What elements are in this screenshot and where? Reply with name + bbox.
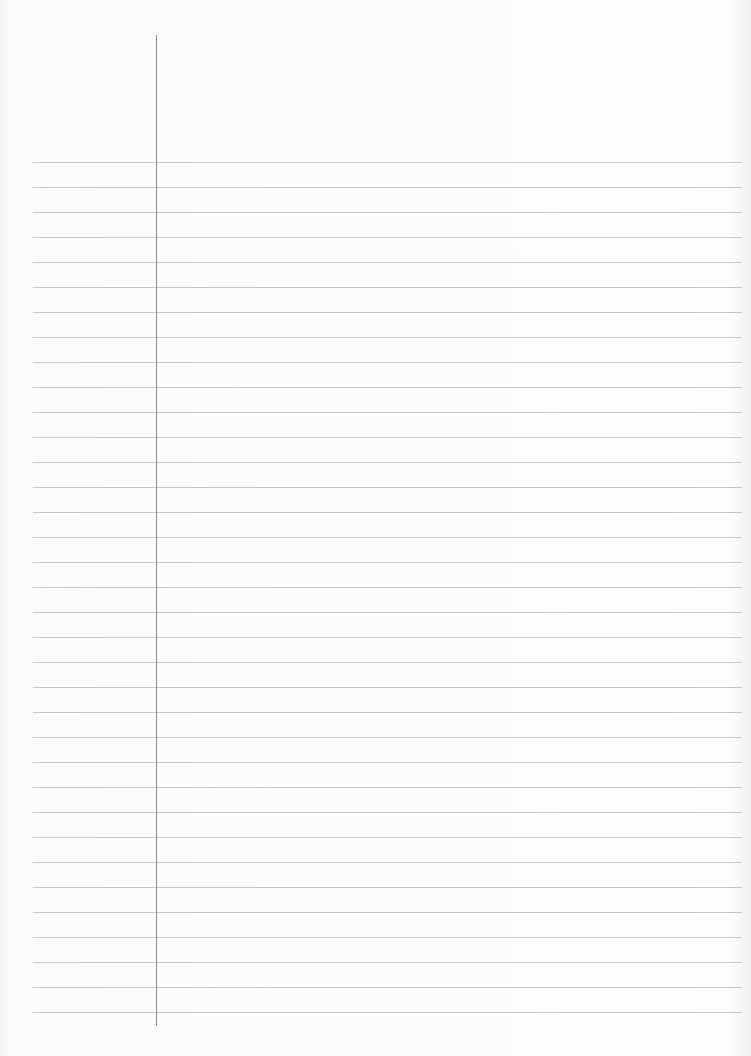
ruled-line bbox=[33, 862, 742, 863]
ruled-line bbox=[33, 1012, 742, 1013]
ruled-line bbox=[33, 237, 742, 238]
ruled-line bbox=[33, 712, 742, 713]
lined-paper-sheet bbox=[0, 0, 751, 1056]
ruled-line bbox=[33, 487, 742, 488]
ruled-line bbox=[33, 737, 742, 738]
ruled-line bbox=[33, 412, 742, 413]
ruled-line bbox=[33, 162, 742, 163]
ruled-line bbox=[33, 662, 742, 663]
ruled-line bbox=[33, 312, 742, 313]
ruled-line bbox=[33, 387, 742, 388]
ruled-line bbox=[33, 812, 742, 813]
ruled-line bbox=[33, 437, 742, 438]
ruled-line bbox=[33, 962, 742, 963]
ruled-line bbox=[33, 587, 742, 588]
ruled-line bbox=[33, 462, 742, 463]
ruled-line bbox=[33, 937, 742, 938]
ruled-line bbox=[33, 687, 742, 688]
ruled-line bbox=[33, 212, 742, 213]
ruled-line bbox=[33, 612, 742, 613]
ruled-line bbox=[33, 987, 742, 988]
ruled-line bbox=[33, 262, 742, 263]
ruled-line bbox=[33, 337, 742, 338]
ruled-line bbox=[33, 287, 742, 288]
ruled-line bbox=[33, 537, 742, 538]
ruled-line bbox=[33, 637, 742, 638]
ruled-line bbox=[33, 837, 742, 838]
ruled-line bbox=[33, 362, 742, 363]
ruled-line bbox=[33, 787, 742, 788]
ruled-line bbox=[33, 512, 742, 513]
ruled-line bbox=[33, 562, 742, 563]
ruled-line bbox=[33, 762, 742, 763]
ruled-line bbox=[33, 887, 742, 888]
ruled-line bbox=[33, 912, 742, 913]
margin-line bbox=[156, 35, 157, 1026]
ruled-line bbox=[33, 187, 742, 188]
